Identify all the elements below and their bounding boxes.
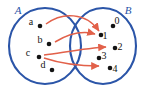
diagram-canvas: A B a b c d 0 1 2 3 4 (0, 0, 147, 87)
mapping-diagram: A B a b c d 0 1 2 3 4 (0, 0, 147, 87)
element-label-4: 4 (113, 63, 118, 74)
set-b-label: B (125, 4, 132, 16)
element-label-b: b (38, 34, 43, 45)
element-label-a: a (29, 16, 34, 27)
element-label-c: c (26, 47, 31, 58)
element-dot-b (47, 42, 52, 47)
element-label-3: 3 (102, 50, 107, 61)
element-label-1: 1 (103, 30, 108, 41)
element-dot-d (50, 68, 55, 73)
arrow-b-to-1 (55, 33, 95, 42)
arrow-c-to-2 (44, 47, 106, 55)
element-dot-a (38, 24, 43, 29)
element-label-d: d (41, 59, 46, 70)
element-label-0: 0 (115, 15, 120, 26)
set-b-boundary (70, 8, 136, 84)
set-b-elements: 0 1 2 3 4 (97, 15, 123, 74)
element-label-2: 2 (118, 41, 123, 52)
set-a-elements: a b c d (26, 16, 55, 72)
set-a-label: A (14, 4, 22, 16)
